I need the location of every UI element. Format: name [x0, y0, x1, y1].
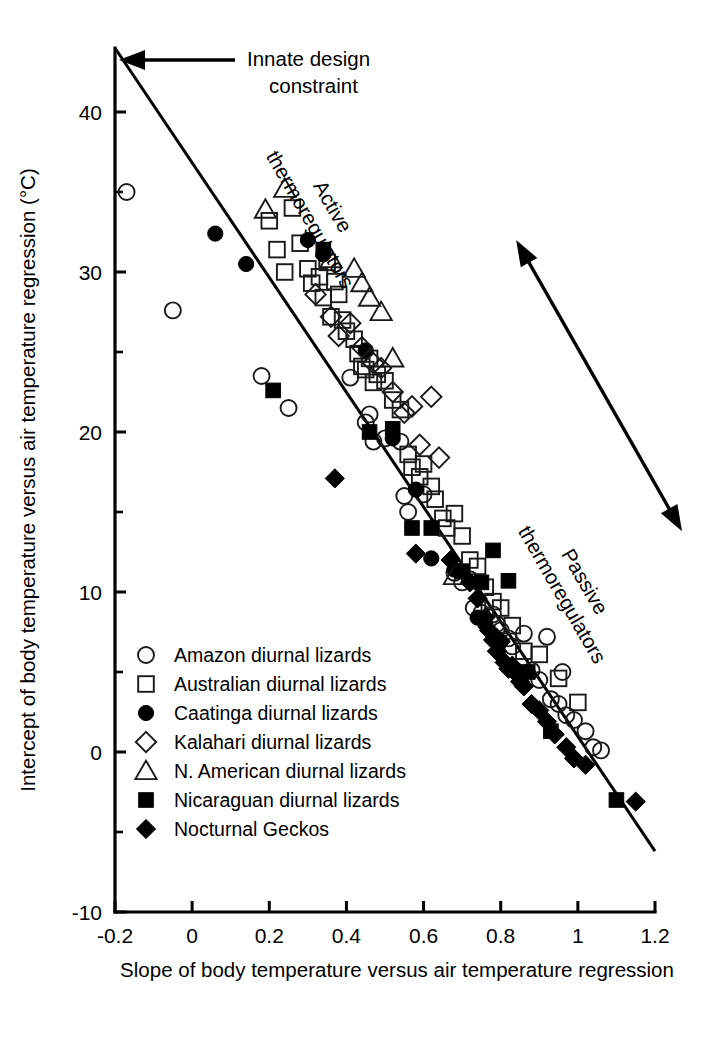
x-tick-label: 1 — [572, 924, 584, 947]
data-point — [486, 543, 501, 558]
innate-constraint-label-line1: Innate design — [247, 47, 370, 70]
data-point — [362, 425, 377, 440]
data-point — [424, 551, 439, 566]
scatter-plot: -0.200.20.40.60.811.2-10010203040 Innate… — [0, 0, 707, 1039]
x-tick-label: 0.4 — [332, 924, 362, 947]
x-tick-label: 0 — [186, 924, 198, 947]
x-tick-label: 0.6 — [409, 924, 438, 947]
data-point — [609, 793, 624, 808]
y-tick-label: -10 — [72, 901, 102, 924]
data-point — [424, 521, 439, 536]
data-point — [239, 256, 254, 271]
y-tick-label: 10 — [79, 581, 102, 604]
legend-item[interactable]: N. American diurnal lizards — [135, 760, 406, 782]
data-point — [385, 422, 400, 437]
x-tick-label: 0.8 — [486, 924, 515, 947]
x-tick-label: -0.2 — [97, 924, 133, 947]
figure-container: -0.200.20.40.60.811.2-10010203040 Innate… — [0, 0, 707, 1039]
plot-background — [0, 0, 707, 1039]
x-axis-title: Slope of body temperature versus air tem… — [120, 958, 674, 981]
legend-label: Nocturnal Geckos — [174, 818, 329, 840]
y-tick-label: 20 — [79, 421, 102, 444]
data-point — [208, 226, 223, 241]
legend-label: Australian diurnal lizards — [174, 673, 387, 695]
y-axis-title: Intercept of body temperature versus air… — [16, 168, 39, 791]
legend-item[interactable]: Amazon diurnal lizards — [138, 644, 372, 666]
legend-item[interactable]: Nicaraguan diurnal lizards — [139, 789, 400, 811]
data-point — [266, 383, 281, 398]
legend-group: Amazon diurnal lizardsAustralian diurnal… — [135, 644, 406, 840]
y-tick-label: 40 — [79, 101, 102, 124]
x-tick-label: 0.2 — [255, 924, 284, 947]
legend-marker-square-filled — [139, 793, 154, 808]
y-tick-label: 0 — [90, 741, 102, 764]
legend-item[interactable]: Australian diurnal lizards — [138, 673, 386, 695]
legend-label: Nicaraguan diurnal lizards — [174, 789, 400, 811]
data-point — [408, 482, 423, 497]
data-point — [501, 574, 516, 589]
x-tick-label: 1.2 — [640, 924, 669, 947]
legend-label: Caatinga diurnal lizards — [174, 702, 378, 724]
legend-label: N. American diurnal lizards — [174, 760, 406, 782]
legend-item[interactable]: Caatinga diurnal lizards — [138, 702, 378, 724]
innate-constraint-label-line2: constraint — [269, 74, 358, 97]
legend-marker-circle-filled — [138, 705, 153, 720]
legend-label: Amazon diurnal lizards — [174, 644, 372, 666]
data-point — [405, 521, 420, 536]
y-tick-label: 30 — [79, 261, 102, 284]
legend-label: Kalahari diurnal lizards — [174, 731, 372, 753]
